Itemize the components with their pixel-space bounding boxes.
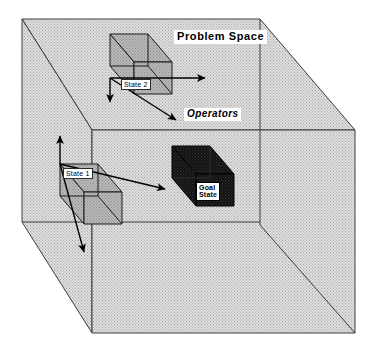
state-1-front-face <box>84 192 122 224</box>
goal-state-label-line2: State <box>199 191 217 198</box>
goal-state-label: GoalState <box>196 182 220 201</box>
problem-space-front-face <box>92 130 355 333</box>
goal-state-label-line1: Goal <box>199 184 215 191</box>
state-1-label: State 1 <box>63 168 93 179</box>
operators-label: Operators <box>184 108 241 121</box>
state-2-label: State 2 <box>121 79 151 90</box>
page-title: Problem Space <box>174 30 267 44</box>
diagram-canvas <box>0 0 376 351</box>
problem-space-diagram: Problem Space State 2 State 1 GoalState … <box>0 0 376 351</box>
